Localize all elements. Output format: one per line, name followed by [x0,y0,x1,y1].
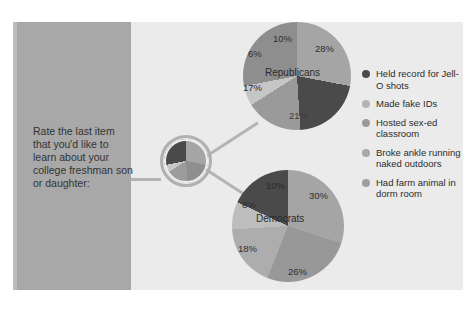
slice-label-democrats-4: 10% [266,180,285,191]
slice-label-republicans-4: 10% [273,33,292,44]
legend-swatch-icon [362,100,370,108]
slice-label-republicans-1: 21% [289,110,308,121]
legend-label: Made fake IDs [376,98,437,109]
slice-label-democrats-2: 18% [238,243,257,254]
prompt-text: Rate the last item that you'd like to le… [33,125,133,190]
slice-label-democrats-1: 26% [288,266,307,277]
legend-swatch-icon [362,119,370,127]
legend-swatch-icon [362,179,370,187]
legend-swatch-icon [362,149,370,157]
mini-pie-hub [156,131,216,191]
slice-label-republicans-3: 6% [248,48,262,59]
slice-label-republicans-2: 17% [243,82,262,93]
legend-label: Held record for Jell-O shots [376,68,459,91]
slide-canvas: Rate the last item that you'd like to le… [0,0,476,311]
legend-swatch-icon [362,70,370,78]
legend-label: Hosted sex-ed classroom [376,117,437,140]
legend-item: Held record for Jell-O shots [362,68,462,91]
pie-title-democrats: Democrats [256,213,304,224]
chart-legend: Held record for Jell-O shots Made fake I… [362,68,462,207]
legend-item: Broke ankle running naked outdoors [362,147,462,170]
slice-label-democrats-0: 30% [309,190,328,201]
pie-title-republicans: Republicans [265,67,320,78]
legend-label: Had farm animal in dorm room [376,177,456,200]
legend-item: Had farm animal in dorm room [362,177,462,200]
legend-item: Made fake IDs [362,98,462,110]
legend-label: Broke ankle running naked outdoors [376,147,461,170]
slice-label-republicans-0: 28% [315,43,334,54]
mini-pie-inner-ring [164,139,208,183]
slice-label-democrats-3: 8% [242,199,256,210]
legend-item: Hosted sex-ed classroom [362,117,462,140]
prompt-panel: Rate the last item that you'd like to le… [13,22,131,290]
